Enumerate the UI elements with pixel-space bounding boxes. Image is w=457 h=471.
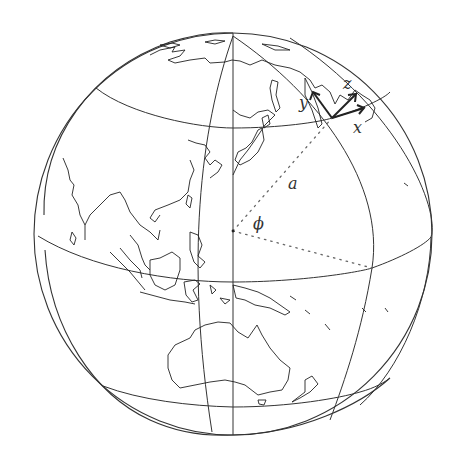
local-frame (310, 92, 364, 118)
y-axis-label: y (298, 93, 309, 112)
parallels (38, 88, 431, 407)
latitude-angle-label: ϕ (253, 214, 264, 233)
x-axis-arrow (332, 105, 364, 118)
z-axis-label: z (342, 74, 352, 93)
globe-diagram: y z x a ϕ (0, 0, 457, 471)
x-axis-label: x (353, 118, 362, 137)
radius-label: a (288, 174, 298, 193)
